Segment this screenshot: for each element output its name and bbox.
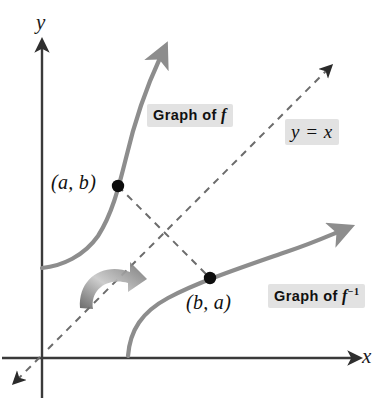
curve-f [42,58,160,268]
graph-of-f-label: Graph of f [147,104,233,127]
graph-of-f-inverse-label: Graph of f−1 [268,284,365,308]
line-y-equals-x-lower [19,357,40,378]
x-axis-label: x [362,346,371,367]
graph-of-f-inverse-exponent: −1 [348,286,360,297]
graph-of-f-text: Graph of [153,107,221,123]
reflection-rotation-arrow [80,262,147,309]
point-a-b-label: (a, b) [51,172,96,192]
point-b-a [204,272,216,284]
point-b-a-label: (b, a) [186,292,231,312]
diagram-canvas [0,0,384,405]
graph-of-f-inverse-text: Graph of [274,288,342,304]
graph-of-f-symbol: f [221,106,227,123]
y-equals-x-label: y = x [285,119,339,145]
point-a-b [112,180,124,192]
inverse-function-diagram: y x (a, b) (b, a) Graph of f y = x Graph… [0,0,384,405]
y-axis-label: y [36,12,45,33]
